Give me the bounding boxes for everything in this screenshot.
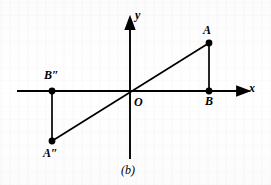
figure-caption: (b) [121,164,135,176]
label-y-axis: y [135,9,140,21]
point-A-double-prime [49,138,56,145]
label-point-B-double-prime: B″ [44,69,59,81]
coordinate-figure-svg [0,0,271,185]
point-A [206,40,213,47]
label-point-B: B [205,95,213,107]
label-point-A: A [203,24,211,36]
figure-container: A B B″ A″ x y O (b) [0,0,271,185]
label-origin: O [134,96,143,108]
label-x-axis: x [249,82,255,94]
label-point-A-double-prime: A″ [43,147,58,159]
point-B-double-prime [49,88,56,95]
